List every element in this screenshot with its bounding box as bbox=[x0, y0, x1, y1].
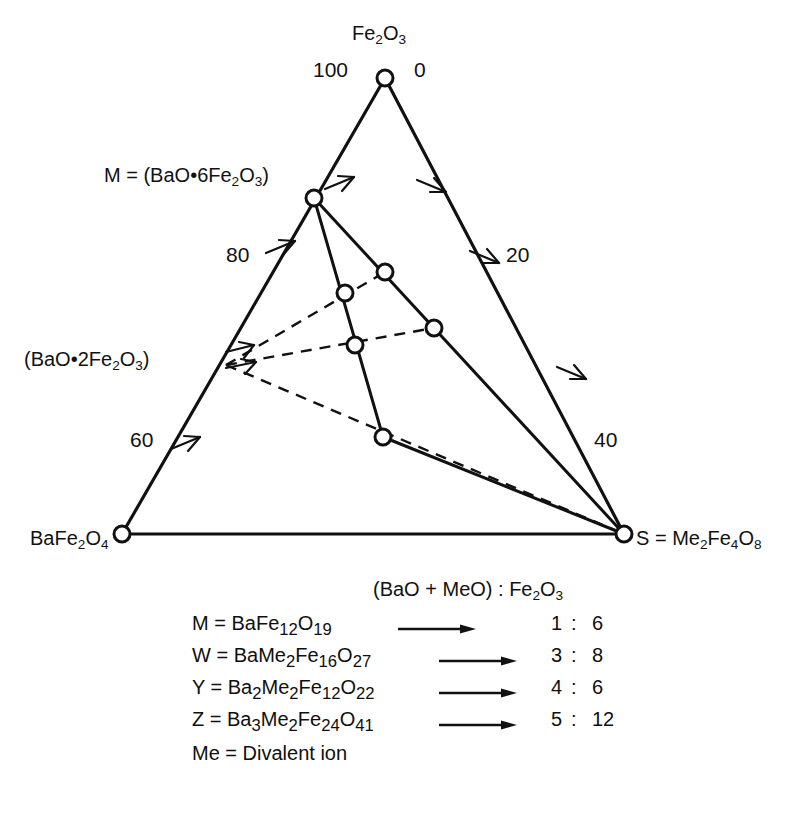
node-lower bbox=[375, 429, 391, 445]
legend-colon-z: : bbox=[571, 708, 577, 731]
tick-label-40-text: 40 bbox=[594, 428, 617, 451]
vertex-label-s: S = Me2Fe4O8 bbox=[636, 527, 762, 550]
edge-tick-marks bbox=[171, 176, 586, 451]
tick-label-80: 80 bbox=[226, 243, 249, 267]
legend-colon-w: : bbox=[571, 644, 577, 667]
legend-colon-m: : bbox=[571, 612, 577, 635]
node-m-phase bbox=[306, 190, 322, 206]
tick-40 bbox=[557, 365, 586, 379]
tick-label-20: 20 bbox=[506, 243, 529, 267]
tick-m-left-edge bbox=[325, 176, 354, 191]
tick-label-100: 100 bbox=[313, 58, 348, 82]
legend-ratio-a-y: 4 bbox=[540, 676, 562, 699]
legend-colon-y: : bbox=[571, 676, 577, 699]
legend-note: Me = Divalent ion bbox=[192, 742, 347, 765]
legend-ratio-b-z: 12 bbox=[592, 708, 614, 731]
tick-label-0: 0 bbox=[414, 58, 426, 82]
tick-label-60-text: 60 bbox=[130, 428, 153, 451]
diagram-nodes bbox=[114, 70, 632, 542]
legend-formula-z: Z = Ba3Me2Fe24O41 bbox=[192, 708, 374, 736]
join-m-to-s bbox=[314, 198, 624, 534]
legend-ratio-b-w: 8 bbox=[592, 644, 603, 667]
vertex-label-bafe2o4-text: BaFe2O4 bbox=[30, 527, 109, 549]
label-w-phase-text: (BaO•2Fe2O3) bbox=[24, 348, 150, 370]
node-fe2o3-apex bbox=[377, 70, 393, 86]
dashed-tie-lines bbox=[226, 272, 624, 534]
node-bafe2o4 bbox=[114, 526, 130, 542]
node-z-phase bbox=[337, 285, 353, 301]
tick-label-20-text: 20 bbox=[506, 243, 529, 266]
join-lower-to-s bbox=[383, 437, 624, 534]
legend-arrow-y bbox=[439, 688, 517, 698]
vertex-label-fe2o3-text: Fe2O3 bbox=[352, 22, 406, 44]
node-upper-mid bbox=[377, 264, 393, 280]
edge-right bbox=[385, 78, 624, 534]
ternary-diagram-svg bbox=[0, 0, 802, 813]
legend-formula-m: M = BaFe12O19 bbox=[192, 612, 332, 640]
label-m-phase: M = (BaO•6Fe2O3) bbox=[104, 164, 269, 187]
legend-formula-w: W = BaMe2Fe16O27 bbox=[192, 644, 371, 672]
node-y-phase bbox=[347, 337, 363, 353]
vertex-label-bafe2o4: BaFe2O4 bbox=[30, 527, 109, 550]
tick-label-60: 60 bbox=[130, 428, 153, 452]
tie-w-to-right-mid bbox=[226, 328, 434, 365]
legend-ratio-a-z: 5 bbox=[540, 708, 562, 731]
legend-arrow-m bbox=[398, 624, 476, 634]
legend-ratio-a-w: 3 bbox=[540, 644, 562, 667]
legend-ratio-b-m: 6 bbox=[592, 612, 603, 635]
legend-header: (BaO + MeO) : Fe2O3 bbox=[373, 578, 563, 601]
legend-header-text: (BaO + MeO) : Fe2O3 bbox=[373, 578, 563, 600]
legend-arrow-w bbox=[439, 656, 517, 666]
tick-label-40: 40 bbox=[594, 428, 617, 452]
tick-80 bbox=[266, 240, 295, 255]
tick-label-100-text: 100 bbox=[313, 58, 348, 81]
legend-formula-y: Y = Ba2Me2Fe12O22 bbox=[192, 676, 375, 704]
label-w-phase: (BaO•2Fe2O3) bbox=[24, 348, 150, 371]
triangle-edges bbox=[122, 78, 624, 534]
legend-ratio-b-y: 6 bbox=[592, 676, 603, 699]
vertex-label-s-text: S = Me2Fe4O8 bbox=[636, 527, 762, 549]
node-s-corner bbox=[616, 526, 632, 542]
tick-label-0-text: 0 bbox=[414, 58, 426, 81]
node-right-mid bbox=[426, 320, 442, 336]
tie-w-to-s-corner bbox=[226, 365, 624, 534]
legend-ratio-a-m: 1 bbox=[540, 612, 562, 635]
legend-arrow-z bbox=[439, 720, 517, 730]
legend-note-text: Me = Divalent ion bbox=[192, 742, 347, 764]
solid-join-lines bbox=[314, 198, 624, 534]
tick-label-80-text: 80 bbox=[226, 243, 249, 266]
figure-canvas: Fe2O3 BaFe2O4 S = Me2Fe4O8 M = (BaO•6Fe2… bbox=[0, 0, 802, 813]
label-m-phase-text: M = (BaO•6Fe2O3) bbox=[104, 164, 269, 186]
vertex-label-fe2o3: Fe2O3 bbox=[352, 22, 406, 45]
